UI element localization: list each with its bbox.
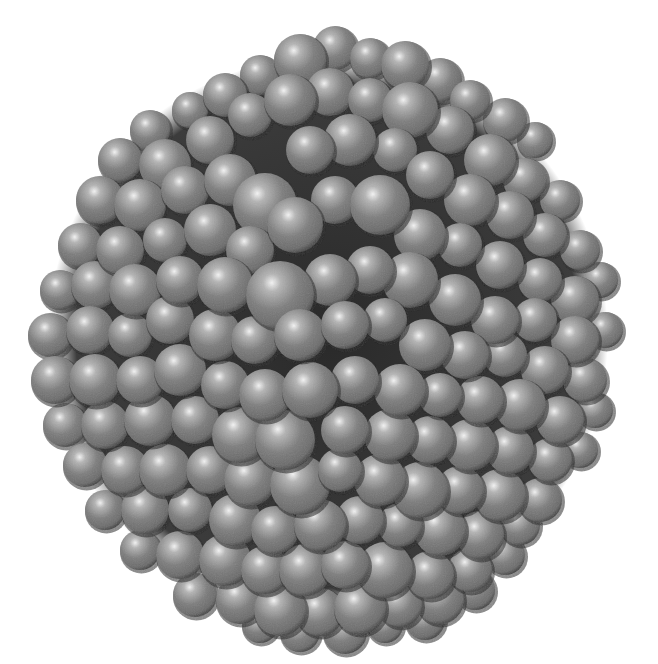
sphere bbox=[143, 218, 187, 262]
sphere bbox=[58, 223, 102, 267]
sphere bbox=[197, 257, 253, 313]
sphere bbox=[321, 301, 369, 349]
sphere bbox=[264, 74, 316, 126]
sphere bbox=[282, 362, 338, 418]
sphere bbox=[156, 531, 204, 579]
sphere bbox=[66, 306, 114, 354]
sphere bbox=[374, 364, 426, 416]
sphere bbox=[98, 138, 142, 182]
sphere bbox=[69, 354, 121, 406]
sphere bbox=[28, 313, 72, 357]
sphere bbox=[139, 444, 191, 496]
sphere bbox=[406, 151, 454, 199]
sphere bbox=[350, 175, 410, 235]
sphere bbox=[286, 126, 334, 174]
sphere-cluster bbox=[0, 0, 658, 664]
sphere bbox=[381, 41, 429, 89]
sphere bbox=[274, 309, 326, 361]
sphere bbox=[108, 313, 152, 357]
sphere bbox=[267, 197, 323, 253]
sphere bbox=[156, 256, 204, 304]
molecular-sphere-cluster-image bbox=[0, 0, 658, 664]
sphere bbox=[43, 403, 87, 447]
